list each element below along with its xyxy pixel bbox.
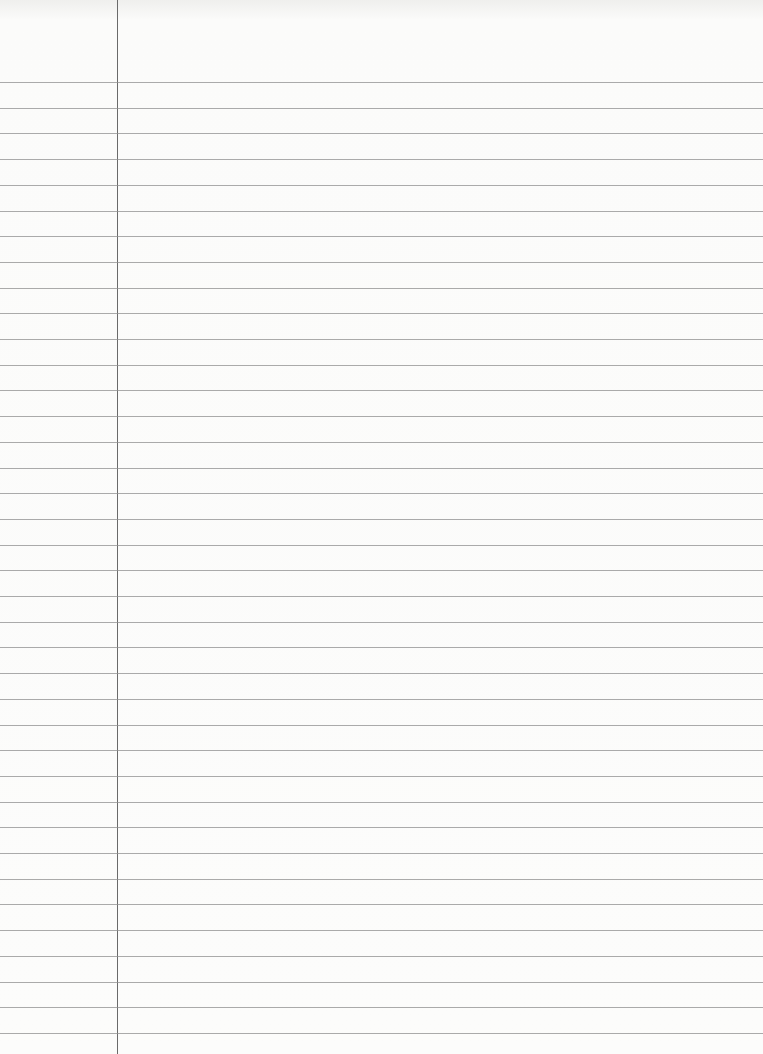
ruled-line <box>0 416 763 417</box>
ruled-line <box>0 827 763 828</box>
ruled-line <box>0 390 763 391</box>
ruled-line <box>0 596 763 597</box>
ruled-line <box>0 313 763 314</box>
ruled-line <box>0 622 763 623</box>
ruled-line <box>0 159 763 160</box>
ruled-line <box>0 982 763 983</box>
ruled-line <box>0 442 763 443</box>
ruled-line <box>0 108 763 109</box>
ruled-line <box>0 673 763 674</box>
ruled-line <box>0 82 763 83</box>
ruled-line <box>0 519 763 520</box>
ruled-line <box>0 725 763 726</box>
ruled-line <box>0 853 763 854</box>
ruled-line <box>0 879 763 880</box>
ruled-line <box>0 802 763 803</box>
ruled-line <box>0 776 763 777</box>
ruled-line <box>0 288 763 289</box>
ruled-line <box>0 930 763 931</box>
ruled-line <box>0 956 763 957</box>
ruled-line <box>0 570 763 571</box>
ruled-line <box>0 262 763 263</box>
ruled-line <box>0 339 763 340</box>
ruled-line <box>0 1007 763 1008</box>
ruled-line <box>0 468 763 469</box>
ruled-line <box>0 904 763 905</box>
ruled-line <box>0 493 763 494</box>
ruled-line <box>0 699 763 700</box>
ruled-line <box>0 236 763 237</box>
ruled-line <box>0 545 763 546</box>
ruled-line <box>0 647 763 648</box>
ruled-line <box>0 750 763 751</box>
ruled-line <box>0 185 763 186</box>
lined-paper <box>0 0 763 1054</box>
ruled-line <box>0 1033 763 1034</box>
ruled-line <box>0 211 763 212</box>
ruled-line <box>0 365 763 366</box>
ruled-line <box>0 133 763 134</box>
